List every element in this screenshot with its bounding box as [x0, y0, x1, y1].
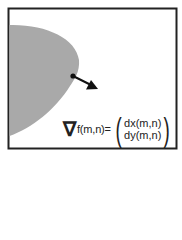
gradient-vector: ( dx(m,n) dy(m,n) ) [113, 112, 173, 146]
dx-component: dx(m,n) [124, 117, 161, 129]
left-paren: ( [115, 112, 121, 146]
right-paren: ) [164, 112, 170, 146]
gradient-formula: ∇ f(m,n)= ( dx(m,n) dy(m,n) ) [63, 112, 173, 146]
nabla-symbol: ∇ [63, 119, 76, 139]
formula-lhs: f(m,n)= [77, 123, 111, 135]
dy-component: dy(m,n) [124, 129, 161, 141]
